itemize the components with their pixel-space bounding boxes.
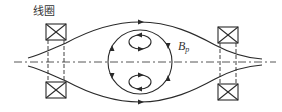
- arrow-down-icon: [110, 73, 115, 79]
- coil-left-bottom: [46, 82, 66, 98]
- arrow-right-icon: [138, 100, 144, 105]
- arrow-left-icon: [136, 33, 142, 38]
- coil-right-top: [218, 27, 238, 43]
- coil-right-bottom: [218, 84, 238, 100]
- inner-loop-top: [129, 35, 151, 49]
- inner-loop-bottom: [129, 75, 151, 89]
- arrow-right-icon: [138, 73, 144, 78]
- arrow-right-icon: [138, 20, 144, 25]
- arrow-up-icon: [110, 45, 115, 51]
- left-coil-connectors: [48, 40, 64, 82]
- coil-label: 线圈: [33, 4, 55, 18]
- arrow-down-icon: [166, 43, 171, 49]
- field-subscript: p: [184, 45, 189, 54]
- magnetic-field-diagram: 线圈 Bp: [0, 0, 282, 112]
- arrow-left-icon: [136, 87, 142, 92]
- field-label: Bp: [178, 39, 189, 54]
- arrow-right-icon: [138, 47, 144, 52]
- arrow-up-icon: [166, 75, 171, 81]
- coil-left-top: [46, 24, 66, 40]
